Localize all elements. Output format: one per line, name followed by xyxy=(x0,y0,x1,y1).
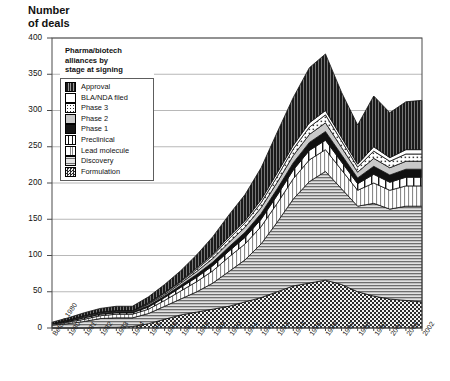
y-tick-label: 350 xyxy=(16,69,42,78)
y-tick-label: 400 xyxy=(16,33,42,42)
y-axis-ticks xyxy=(47,38,52,328)
y-tick-label: 300 xyxy=(16,105,42,114)
area-series-group xyxy=(52,54,422,328)
y-tick-label: 100 xyxy=(16,250,42,259)
y-tick-label: 150 xyxy=(16,214,42,223)
y-tick-label: 0 xyxy=(16,323,42,332)
y-tick-label: 50 xyxy=(16,286,42,295)
y-tick-label: 200 xyxy=(16,178,42,187)
y-tick-label: 250 xyxy=(16,141,42,150)
figure: Number of deals xyxy=(0,0,450,381)
plot-area-wrapper: 050100150200250300350400 Before 19801980… xyxy=(0,0,450,381)
